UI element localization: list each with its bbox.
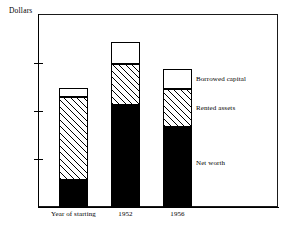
x-axis-label-1952: 1952 [104,210,147,218]
bar-segment-rented-assets [111,64,140,105]
x-axis-line [38,207,279,208]
y-tick-mark [34,159,43,160]
legend-label-rented-assets: Rented assets [196,104,235,112]
bar-1956 [163,69,192,207]
bar-segment-borrowed-capital [163,69,192,89]
y-tick-mark [34,63,43,64]
stacked-bar-chart: Dollars 30,000 20,000 10,000 Year of sta… [0,0,291,233]
bar-segment-net-worth [163,127,192,207]
x-axis-label-year-of-starting: Year of starting [34,210,113,218]
bar-1952 [111,42,140,207]
x-axis-label-1956: 1956 [156,210,199,218]
bar-segment-rented-assets [59,97,88,180]
y-tick-mark [34,111,43,112]
y-axis-title: Dollars [9,6,32,15]
bar-segment-borrowed-capital [111,42,140,64]
legend-label-borrowed-capital: Borrowed capital [196,75,246,83]
bar-segment-net-worth [59,180,88,207]
bar-segment-net-worth [111,105,140,207]
bar-segment-borrowed-capital [59,88,88,97]
bar-year-of-starting [59,88,88,207]
bar-segment-rented-assets [163,89,192,127]
legend-label-net-worth: Net worth [196,159,225,167]
